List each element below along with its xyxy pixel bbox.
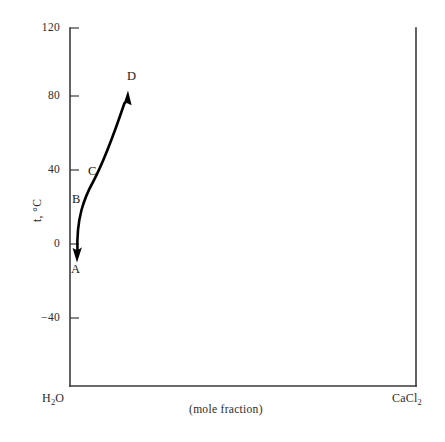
y-tick-label-0: 0 bbox=[26, 238, 60, 250]
phase-boundary-curve bbox=[77, 103, 124, 252]
y-tick-label-40: 40 bbox=[26, 164, 60, 176]
phase-diagram-figure: 120 80 40 0 −40 t, °C A B C D H2O CaCl2 … bbox=[0, 0, 445, 442]
x-axis-right-species-label: CaCl2 bbox=[392, 392, 422, 404]
water-formula-tail: O bbox=[55, 391, 64, 405]
salt-formula-subscript: 2 bbox=[417, 397, 421, 407]
arrow-head-up-d bbox=[123, 91, 132, 106]
y-tick-label-minus40: −40 bbox=[20, 312, 60, 324]
x-axis-left-species-label: H2O bbox=[42, 392, 64, 404]
curve-label-b: B bbox=[72, 193, 81, 206]
y-axis-title: t, °C bbox=[32, 199, 44, 222]
y-tick-label-120: 120 bbox=[26, 22, 60, 34]
curve-label-a: A bbox=[71, 263, 80, 276]
water-formula-main: H bbox=[42, 391, 51, 405]
water-formula-subscript: 2 bbox=[51, 397, 55, 407]
curve-label-d: D bbox=[127, 70, 136, 83]
curve-label-c: C bbox=[88, 165, 97, 178]
x-axis-title: (mole fraction) bbox=[189, 404, 263, 416]
plot-canvas bbox=[0, 0, 445, 442]
salt-formula-main: CaCl bbox=[392, 391, 417, 405]
y-tick-label-80: 80 bbox=[26, 90, 60, 102]
